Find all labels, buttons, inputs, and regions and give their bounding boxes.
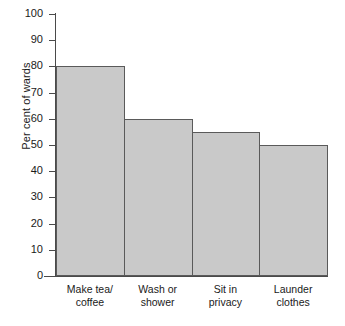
bar <box>124 119 193 276</box>
y-axis-tick <box>49 93 55 94</box>
y-axis-tick <box>49 14 55 15</box>
y-axis-tick-label: 70 <box>3 87 43 98</box>
y-axis-tick-label: 0 <box>3 270 43 281</box>
bar-chart: Per cent of wards 1009080706050403020100… <box>0 0 345 326</box>
category-label-line: shower <box>124 296 192 309</box>
y-axis-tick-label: 30 <box>3 191 43 202</box>
y-axis-tick <box>49 276 55 277</box>
y-axis-title: Per cent of wards <box>20 36 32 176</box>
y-axis-tick <box>49 119 55 120</box>
plot-area <box>56 14 327 276</box>
category-label-line: clothes <box>259 296 327 309</box>
y-axis-tick-label: 10 <box>3 244 43 255</box>
y-axis-tick <box>49 66 55 67</box>
x-axis-category-label: Sit inprivacy <box>192 283 260 309</box>
y-axis-tick-label: 20 <box>3 218 43 229</box>
category-label-line: Wash or <box>124 283 192 296</box>
y-axis-tick <box>49 40 55 41</box>
y-axis-tick-label: 100 <box>3 8 43 19</box>
bar <box>56 66 125 276</box>
y-axis-tick <box>49 224 55 225</box>
y-axis-tick <box>49 171 55 172</box>
category-label-line: privacy <box>192 296 260 309</box>
x-axis-category-label: Launderclothes <box>259 283 327 309</box>
category-label-line: Make tea/ <box>56 283 124 296</box>
y-axis-tick-label: 50 <box>3 139 43 150</box>
x-axis-line <box>44 276 328 277</box>
x-axis-category-label: Wash orshower <box>124 283 192 309</box>
y-axis-tick-label: 60 <box>3 113 43 124</box>
y-axis-tick-label: 90 <box>3 34 43 45</box>
bar <box>192 132 261 276</box>
y-axis-tick <box>49 197 55 198</box>
y-axis-tick <box>49 250 55 251</box>
category-label-line: Launder <box>259 283 327 296</box>
y-axis-tick <box>49 145 55 146</box>
y-axis-tick-label: 40 <box>3 165 43 176</box>
category-label-line: Sit in <box>192 283 260 296</box>
bar <box>259 145 328 276</box>
y-axis-tick-label: 80 <box>3 60 43 71</box>
category-label-line: coffee <box>56 296 124 309</box>
x-axis-category-label: Make tea/coffee <box>56 283 124 309</box>
